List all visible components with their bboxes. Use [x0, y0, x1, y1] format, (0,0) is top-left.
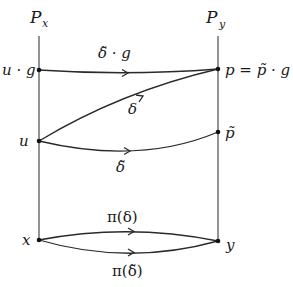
fiber-label-px-main: P	[29, 7, 42, 27]
fiber-label-py-main: P	[205, 7, 218, 27]
arrow-icon	[136, 95, 143, 102]
label-ptilde: p̃	[225, 124, 235, 142]
label-delta: δ	[128, 100, 137, 118]
label-delta-tilde: δ̃	[116, 158, 125, 176]
curve-pi-delta-tilde	[39, 240, 218, 253]
curve-delta-tilde	[39, 132, 218, 151]
curve-delta-tilde-g	[39, 69, 218, 73]
principal-bundle-diagram: P x P y δ̃ · g δ δ̃ π(δ) π(δ̃) u · g p =…	[0, 0, 293, 287]
label-p-eq: p = p̃ · g	[225, 61, 290, 79]
point-ug	[37, 68, 42, 73]
label-pi-delta: π(δ)	[107, 208, 138, 226]
fiber-label-py-sub: y	[218, 18, 226, 31]
label-u: u	[19, 132, 29, 150]
point-x	[37, 238, 42, 243]
point-p	[216, 67, 221, 72]
label-y: y	[225, 236, 235, 254]
fiber-label-px-sub: x	[42, 17, 49, 30]
point-ptilde	[216, 130, 221, 135]
label-ug: u · g	[2, 61, 36, 79]
label-x: x	[22, 231, 31, 249]
point-y	[216, 239, 221, 244]
fiber-label-px: P x	[29, 7, 49, 30]
label-delta-tilde-g: δ̃ · g	[98, 44, 131, 62]
arrow-icon	[128, 249, 134, 256]
point-u	[37, 139, 42, 144]
label-pi-delta-tilde: π(δ̃)	[112, 262, 143, 280]
fiber-label-py: P y	[205, 7, 226, 31]
curve-pi-delta	[39, 232, 218, 241]
